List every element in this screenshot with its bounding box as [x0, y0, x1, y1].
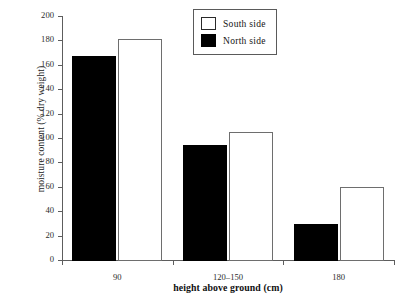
y-tick: 200 [58, 16, 63, 17]
chart-legend: South side North side [193, 9, 277, 55]
legend-item-south: South side [201, 15, 266, 32]
legend-item-north: North side [201, 32, 266, 49]
y-tick-label: 200 [41, 10, 54, 20]
y-tick-label: 60 [45, 181, 54, 191]
legend-label-north: North side [223, 36, 266, 46]
chart-figure: moisture content (% dry weight) 02040608… [0, 0, 408, 298]
x-tick-label: 90 [113, 272, 122, 282]
y-tick-label: 160 [41, 59, 54, 69]
y-tick-label: 180 [41, 34, 54, 44]
x-tick [394, 260, 395, 265]
x-tick-label: 180 [332, 272, 345, 282]
y-axis-line [62, 17, 63, 261]
y-tick: 60 [58, 187, 63, 188]
x-tick [62, 260, 63, 265]
legend-swatch-south-icon [201, 17, 216, 30]
y-tick: 40 [58, 211, 63, 212]
legend-label-south: South side [223, 19, 266, 29]
x-tick-label: 120–150 [213, 272, 243, 282]
y-tick: 100 [58, 138, 63, 139]
bar-north-side-2 [294, 224, 338, 261]
x-tick [283, 260, 284, 265]
y-tick-label: 20 [45, 230, 54, 240]
y-tick: 120 [58, 114, 63, 115]
y-tick: 80 [58, 162, 63, 163]
y-tick-label: 140 [41, 83, 54, 93]
bar-south-side-1 [229, 132, 273, 261]
x-axis-title: height above ground (cm) [62, 282, 394, 293]
bar-south-side-0 [118, 39, 162, 261]
bar-north-side-0 [72, 56, 116, 261]
y-tick-label: 40 [45, 205, 54, 215]
y-tick: 160 [58, 65, 63, 66]
bar-south-side-2 [340, 187, 384, 261]
legend-swatch-north-icon [201, 34, 216, 47]
y-tick-label: 0 [50, 254, 54, 264]
y-tick-label: 120 [41, 108, 54, 118]
y-tick: 180 [58, 40, 63, 41]
y-tick-label: 100 [41, 132, 54, 142]
y-tick: 20 [58, 236, 63, 237]
x-tick [173, 260, 174, 265]
bar-north-side-1 [183, 145, 227, 261]
y-tick-label: 80 [45, 156, 54, 166]
y-tick: 140 [58, 89, 63, 90]
